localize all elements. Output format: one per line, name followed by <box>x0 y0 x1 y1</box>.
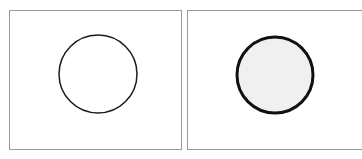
outline-circle <box>59 35 137 113</box>
filled-circle <box>237 37 313 113</box>
